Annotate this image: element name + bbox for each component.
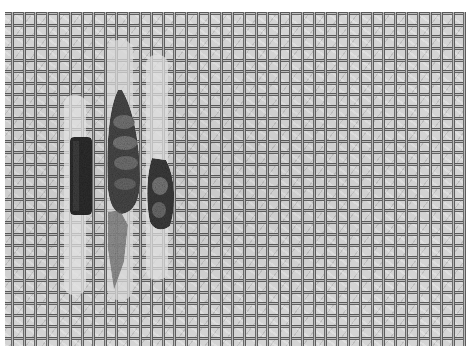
middle-case — [107, 90, 140, 290]
left-case — [70, 137, 92, 215]
right-case — [147, 158, 174, 229]
specimen-layer — [0, 0, 472, 356]
